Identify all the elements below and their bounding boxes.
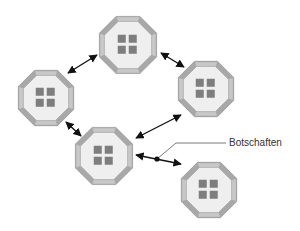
window-square-icon <box>129 46 137 54</box>
window-square-icon <box>199 191 207 199</box>
window-square-icon <box>105 146 113 154</box>
arrow-middle-right <box>136 115 181 138</box>
agent-node-left <box>18 70 73 125</box>
octagon-band <box>128 145 132 168</box>
window-square-icon <box>118 46 126 54</box>
arrow-top-right <box>161 53 184 67</box>
octagon-inner <box>183 66 228 111</box>
octagon-band <box>35 121 57 125</box>
agent-nodes <box>18 16 236 217</box>
window-square-icon <box>36 88 44 96</box>
window-square-icon <box>199 180 207 188</box>
network-diagram: Botschaften <box>0 0 300 231</box>
window-square-icon <box>207 90 215 98</box>
agent-node-top <box>99 16 156 73</box>
octagon-band <box>117 69 140 73</box>
window-square-icon <box>196 79 204 87</box>
octagon-band <box>182 179 186 201</box>
octagon-inner <box>104 21 151 68</box>
window-square-icon <box>118 35 126 43</box>
window-square-icon <box>36 99 44 107</box>
octagon-band <box>117 17 140 21</box>
octagon-band <box>229 78 233 100</box>
botschaften-label: Botschaften <box>229 137 282 148</box>
octagon-band <box>35 71 57 75</box>
octagon-band <box>198 163 220 167</box>
octagon-inner <box>23 75 68 120</box>
window-square-icon <box>210 180 218 188</box>
window-square-icon <box>94 146 102 154</box>
octagon-band <box>69 87 73 109</box>
octagon-band <box>232 179 236 201</box>
agent-node-right <box>178 61 233 116</box>
window-square-icon <box>47 88 55 96</box>
label-leader-line <box>157 143 226 159</box>
octagon-band <box>100 34 104 57</box>
octagon-band <box>179 78 183 100</box>
octagon-band <box>93 128 116 132</box>
octagon-inner <box>186 167 231 212</box>
octagon-inner <box>80 132 127 179</box>
octagon-band <box>76 145 80 168</box>
agent-node-bottom-right <box>181 162 236 217</box>
window-square-icon <box>196 90 204 98</box>
window-square-icon <box>94 157 102 165</box>
window-square-icon <box>47 99 55 107</box>
octagon-band <box>195 112 217 116</box>
window-square-icon <box>207 79 215 87</box>
window-square-icon <box>129 35 137 43</box>
window-square-icon <box>105 157 113 165</box>
message-dot <box>154 156 159 161</box>
agent-node-middle <box>75 127 132 184</box>
octagon-band <box>198 213 220 217</box>
arrow-top-left <box>68 55 97 73</box>
arrow-left-middle <box>66 122 81 136</box>
window-square-icon <box>210 191 218 199</box>
octagon-band <box>195 62 217 66</box>
octagon-band <box>19 87 23 109</box>
octagon-band <box>152 34 156 57</box>
octagon-band <box>93 180 116 184</box>
